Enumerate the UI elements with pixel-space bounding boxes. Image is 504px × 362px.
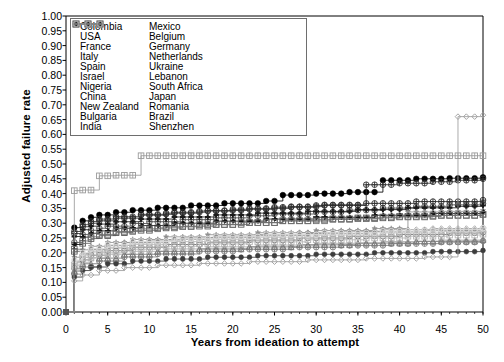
legend-column-2: MexicoBelgiumGermanyNetherlandsUkraineLe… <box>145 22 203 132</box>
markers <box>72 153 486 194</box>
failure-rate-chart: Adjusted failure rate Years from ideatio… <box>0 0 504 362</box>
legend-item-india[interactable]: India <box>76 122 139 132</box>
chart-legend: ColombiaUSAFranceItalySpainIsraelNigeria… <box>70 18 307 136</box>
legend-label: Shenzhen <box>149 122 194 132</box>
legend-label: India <box>80 122 102 132</box>
diamond-small-icon <box>71 19 105 29</box>
legend-column-1: ColombiaUSAFranceItalySpainIsraelNigeria… <box>76 22 139 132</box>
markers <box>72 248 485 279</box>
legend-item-shenzhen[interactable]: Shenzhen <box>145 122 203 132</box>
